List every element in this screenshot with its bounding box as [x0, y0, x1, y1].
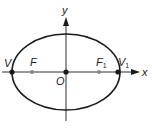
origin-point: [63, 69, 68, 74]
vertex-v1-label: V1: [118, 56, 129, 69]
y-axis-arrow-icon: [63, 17, 69, 26]
origin-label: O: [56, 75, 65, 87]
focus-f1-label: F1: [96, 56, 107, 69]
x-axis-arrow-icon: [131, 69, 140, 75]
focus-f-point: [30, 70, 34, 74]
vertex-v1-point: [115, 69, 120, 74]
x-axis-label: x: [141, 66, 148, 78]
ellipse-diagram: x y V F O F1 V1: [0, 0, 152, 130]
focus-f1-point: [97, 70, 101, 74]
y-axis-label: y: [61, 4, 69, 16]
vertex-v1-subscript: 1: [125, 62, 129, 69]
focus-f1-subscript: 1: [103, 62, 107, 69]
vertex-v-point: [9, 69, 14, 74]
focus-f-label: F: [30, 56, 38, 68]
